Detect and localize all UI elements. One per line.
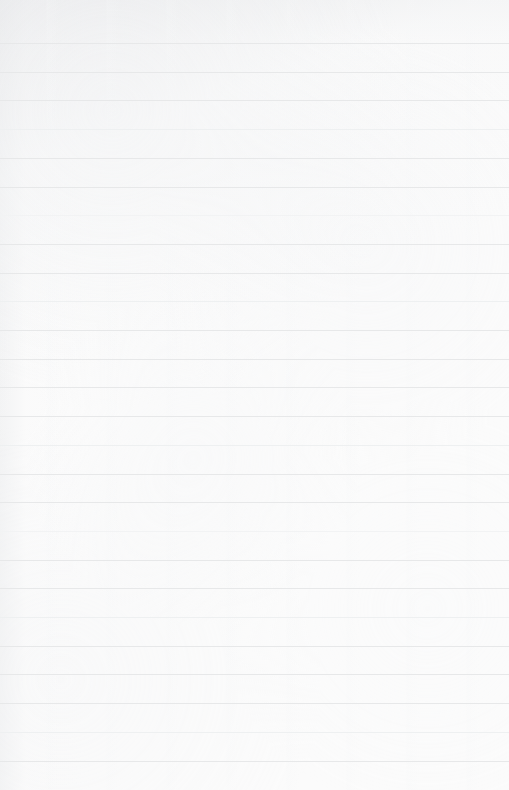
ruled-paper-page	[0, 0, 509, 790]
page-body-text	[0, 0, 509, 790]
